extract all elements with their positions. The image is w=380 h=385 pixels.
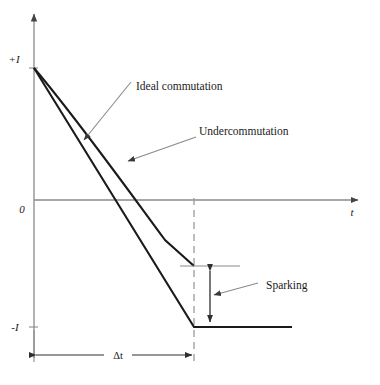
undercommutation-leader [128,137,196,161]
delta-t-label: Δt [113,350,123,361]
label-minus-I: -I [11,321,20,333]
diagram-canvas: +I 0 -I t Ideal commutation Undercommuta… [0,0,380,385]
delta-t-dimension: Δt [34,330,192,362]
sparking-annotation: Sparking [180,266,308,322]
undercommutation-label: Undercommutation [199,125,289,137]
sparking-label: Sparking [266,279,308,292]
undercommutation-curve [34,68,194,266]
commutation-diagram: +I 0 -I t Ideal commutation Undercommuta… [0,0,380,385]
label-time-axis: t [350,206,354,218]
sparking-leader [214,283,258,295]
ideal-commutation-leader [84,82,131,140]
ideal-commutation-label: Ideal commutation [136,80,223,92]
ideal-commutation-curve [34,68,292,327]
undercommutation-annotation: Undercommutation [128,125,289,161]
label-plus-I: +I [8,53,20,65]
label-zero: 0 [19,203,25,215]
